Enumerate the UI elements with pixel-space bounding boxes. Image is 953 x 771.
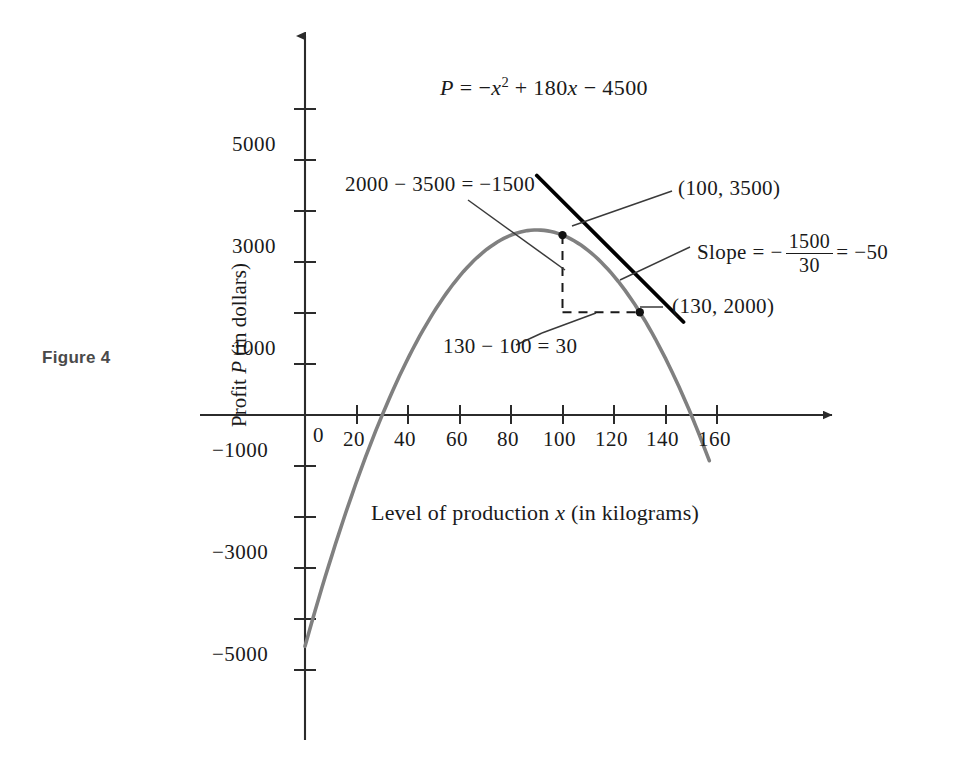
slope-prefix: Slope = −	[697, 240, 783, 264]
slope-equals: =	[836, 240, 848, 264]
leader-point-a	[572, 191, 672, 226]
x-tick-label-80: 80	[497, 427, 519, 452]
figure-label: Figure 4	[42, 348, 111, 368]
point-130-2000	[636, 308, 644, 316]
equation-term2-coef: 180	[533, 75, 567, 100]
x-tick-label-100: 100	[543, 427, 576, 452]
leader-rise	[468, 200, 565, 270]
x-tick-label-160: 160	[698, 427, 731, 452]
y-axis-title: Profit P (in dollars)	[227, 215, 257, 475]
point-b-label: (130, 2000)	[672, 294, 774, 319]
data-curves	[305, 176, 709, 647]
y-axis-title-suffix: (in dollars)	[227, 263, 251, 361]
slope-numerator: 1500	[786, 231, 834, 254]
figure-container: Figure 4 P = −x2 + 180x − 4500 5000 3000…	[0, 0, 953, 771]
run-annotation: 130 − 100 = 30	[443, 334, 577, 359]
x-tick-label-60: 60	[446, 427, 468, 452]
equation-minus: −	[584, 75, 597, 100]
equation-term3: 4500	[602, 75, 648, 100]
tangent-line	[537, 176, 684, 323]
equation-annotation: P = −x2 + 180x − 4500	[440, 74, 648, 101]
slope-value: −50	[854, 240, 888, 264]
chart-canvas	[0, 0, 953, 771]
equation-plus: +	[515, 75, 528, 100]
parabola-curve	[305, 523, 691, 763]
x-axis-title-var: x	[555, 500, 565, 525]
y-axis-title-var: P	[227, 361, 251, 374]
parabola-path	[305, 324, 722, 645]
leader-lines	[468, 191, 690, 345]
y-tick-label-neg3000: −3000	[212, 540, 268, 565]
x-tick-label-140: 140	[646, 427, 679, 452]
x-axis-title-suffix: (in kilograms)	[565, 500, 699, 525]
equation-lhs: P	[440, 75, 454, 100]
y-axis-title-prefix: Profit	[227, 374, 251, 427]
rise-annotation: 2000 − 3500 = −1500	[345, 172, 535, 197]
parabola	[305, 419, 692, 644]
y-tick-label-5000: 5000	[232, 132, 276, 157]
slope-annotation: Slope = −150030= −50	[697, 232, 888, 277]
equation-equals: =	[460, 75, 473, 100]
equation-term1-var: x	[491, 75, 501, 100]
y-tick-label-neg5000: −5000	[212, 642, 268, 667]
equation-term2-var: x	[568, 75, 578, 100]
point-100-3500	[558, 231, 566, 239]
x-tick-label-120: 120	[595, 427, 628, 452]
x-tick-label-40: 40	[394, 427, 416, 452]
point-a-label: (100, 3500)	[678, 176, 780, 201]
slope-fraction: 150030	[786, 231, 834, 276]
leader-run	[542, 313, 596, 333]
slope-denominator: 30	[786, 254, 834, 276]
x-tick-label-0: 0	[313, 423, 324, 448]
equation-term1-sign: −	[478, 75, 491, 100]
leader-slope	[620, 247, 690, 280]
x-axis-title-prefix: Level of production	[371, 500, 555, 525]
x-tick-label-20: 20	[343, 427, 365, 452]
x-axis-title: Level of production x (in kilograms)	[371, 500, 699, 526]
equation-term1-exponent: 2	[501, 74, 508, 90]
